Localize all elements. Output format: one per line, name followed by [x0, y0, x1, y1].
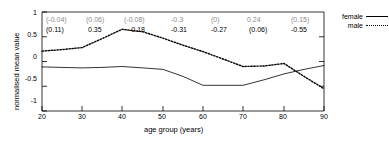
series-line-female	[42, 66, 324, 86]
legend-label-male: male	[348, 22, 363, 29]
legend-item-male: male	[330, 21, 388, 30]
legend-item-female: female	[330, 12, 388, 21]
legend-swatch-solid-icon	[366, 14, 388, 19]
series-line-male	[42, 29, 324, 88]
legend-swatch-dotted-icon	[366, 23, 388, 28]
x-tick-marks	[42, 106, 324, 111]
legend: female male	[330, 12, 388, 30]
legend-label-female: female	[342, 13, 363, 20]
axis-frame	[42, 12, 324, 111]
chart-figure: 1 0.5 0 -0.5 -1 normalised mean value 20…	[0, 0, 389, 145]
y-tick-marks	[42, 12, 324, 111]
